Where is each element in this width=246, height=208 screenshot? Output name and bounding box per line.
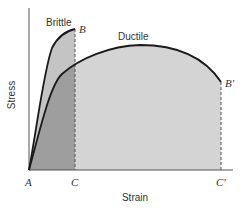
point-b-prime-label: B' [225,77,235,89]
point-b-label: B [79,23,86,35]
point-a-label: A [24,176,32,188]
ductile-label: Ductile [118,31,149,42]
point-c-label: C [71,176,79,188]
point-c-prime-label: C' [216,176,226,188]
stress-strain-diagram: Brittle Ductile B B' A C C' Strain Stres… [0,0,246,208]
x-axis-label: Strain [122,192,148,203]
y-axis-label: Stress [6,81,17,109]
brittle-label: Brittle [46,17,72,28]
